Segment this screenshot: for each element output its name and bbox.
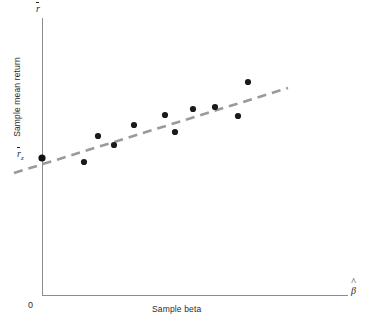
- y-intercept-point: [38, 154, 45, 161]
- data-point: [235, 113, 241, 119]
- data-point: [131, 122, 137, 128]
- fitted-regression-line: [14, 88, 288, 173]
- x-axis-symbol-beta-glyph: β: [351, 285, 356, 296]
- plot-canvas: [0, 0, 370, 323]
- data-point: [162, 112, 168, 118]
- y-axis-symbol-rbar-glyph: r: [36, 3, 40, 14]
- data-point-group: [81, 79, 251, 165]
- y-axis-label: Sample mean return: [12, 42, 22, 152]
- data-point: [212, 104, 218, 110]
- data-point: [95, 133, 101, 139]
- x-axis-label: Sample beta: [152, 304, 201, 314]
- data-point: [245, 79, 251, 85]
- data-point: [81, 159, 87, 165]
- x-axis-symbol-beta-hat: β: [351, 285, 356, 296]
- y-intercept-symbol-rbar-z: rz: [17, 148, 24, 162]
- data-point: [111, 142, 117, 148]
- origin-label: 0: [28, 300, 33, 310]
- y-intercept-symbol-glyph: r: [17, 148, 21, 159]
- scatter-figure: Sample mean return Sample beta 0 r rz β: [0, 0, 370, 323]
- y-axis-symbol-rbar: r: [36, 3, 40, 14]
- data-point: [172, 129, 178, 135]
- data-point: [190, 106, 196, 112]
- y-intercept-symbol-subscript: z: [21, 154, 24, 162]
